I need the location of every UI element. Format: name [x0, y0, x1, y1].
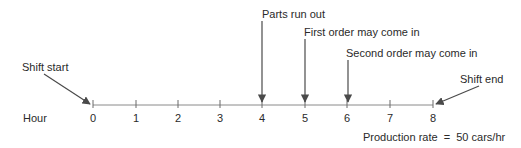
tick-label: 3 — [210, 112, 230, 124]
shift-start-arrow-icon — [44, 74, 90, 104]
tick-label: 7 — [380, 112, 400, 124]
tick-label: 0 — [83, 112, 103, 124]
tick-label: 8 — [423, 112, 443, 124]
tick-label: 6 — [337, 112, 357, 124]
tick-label: 2 — [168, 112, 188, 124]
timeline-diagram — [0, 0, 521, 148]
tick-label: 1 — [126, 112, 146, 124]
event-label-shift-start: Shift start — [22, 61, 68, 73]
axis-ticks — [93, 100, 433, 108]
event-label-shift-end: Shift end — [460, 73, 503, 85]
axis-label-hour: Hour — [23, 112, 47, 124]
event-label-parts-run-out: Parts run out — [262, 8, 325, 20]
shift-end-arrow-icon — [436, 86, 479, 104]
tick-label: 4 — [252, 112, 272, 124]
production-rate-note: Production rate = 50 cars/hr — [363, 131, 505, 143]
event-label-second-order: Second order may come in — [346, 47, 477, 59]
tick-label: 5 — [295, 112, 315, 124]
event-label-first-order: First order may come in — [304, 26, 420, 38]
